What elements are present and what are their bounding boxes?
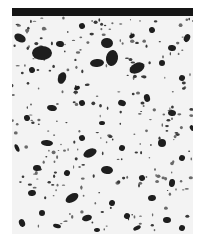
pore — [164, 207, 168, 210]
pore — [189, 108, 193, 111]
pore — [125, 58, 129, 60]
pore — [27, 106, 28, 109]
pore — [154, 20, 158, 22]
pore — [29, 67, 36, 74]
pore — [138, 174, 146, 182]
pore — [81, 177, 85, 179]
pore — [117, 180, 120, 183]
pore — [166, 130, 169, 132]
pore — [96, 96, 99, 97]
pore — [111, 22, 113, 24]
pore — [142, 40, 146, 43]
pore — [174, 135, 177, 138]
pore — [150, 144, 152, 146]
pore — [95, 202, 97, 204]
pore — [100, 115, 101, 118]
pore — [104, 25, 106, 27]
pore — [53, 175, 55, 179]
pore — [38, 87, 40, 89]
pore — [129, 58, 133, 61]
micrograph-canvas — [12, 8, 193, 234]
pore — [138, 113, 142, 115]
pore — [119, 23, 122, 24]
pore — [30, 104, 32, 106]
micrograph-image — [12, 8, 193, 234]
pore — [126, 176, 128, 179]
pore — [127, 75, 129, 76]
pore — [189, 114, 193, 117]
pore — [24, 145, 28, 149]
pore — [101, 211, 104, 213]
pore — [152, 213, 153, 216]
pore — [176, 42, 179, 45]
pore — [37, 69, 40, 71]
pore — [28, 45, 29, 48]
pore — [27, 82, 30, 85]
pore — [167, 190, 168, 191]
pore — [148, 194, 157, 201]
pore — [75, 66, 77, 69]
pore — [106, 141, 108, 143]
pore — [181, 50, 183, 52]
pore — [47, 130, 49, 131]
pore — [31, 122, 34, 124]
pore — [12, 119, 14, 122]
pore — [32, 58, 34, 59]
pore — [56, 155, 58, 159]
pore — [158, 137, 160, 140]
pore — [60, 223, 63, 224]
pore — [56, 121, 57, 122]
pore — [75, 157, 78, 160]
pore — [136, 91, 140, 94]
pore — [93, 174, 95, 178]
pore — [186, 18, 189, 21]
pore — [164, 77, 165, 79]
pore — [143, 105, 145, 107]
pore — [98, 192, 100, 193]
pore — [171, 172, 172, 174]
pore — [138, 184, 140, 188]
pore — [117, 99, 127, 107]
pore — [131, 214, 133, 216]
pore — [107, 106, 109, 110]
pore — [58, 150, 60, 151]
pore — [63, 221, 67, 222]
pore — [52, 65, 55, 68]
pore — [54, 172, 57, 174]
pore — [169, 107, 170, 110]
pore — [73, 85, 80, 91]
pore — [128, 60, 147, 76]
pore — [36, 178, 38, 179]
pore — [155, 174, 156, 177]
pore — [101, 37, 114, 48]
pore — [43, 161, 45, 164]
pore — [55, 189, 57, 191]
pore — [94, 228, 100, 233]
pore — [16, 123, 19, 126]
pore — [165, 125, 169, 127]
pore — [133, 224, 142, 231]
pore — [143, 93, 151, 102]
pore — [17, 24, 21, 26]
pore — [171, 117, 173, 120]
pore — [171, 106, 174, 109]
pore — [182, 87, 185, 90]
pore — [154, 229, 156, 231]
pore — [120, 39, 121, 42]
pore — [30, 120, 33, 121]
pore — [63, 169, 71, 177]
pore — [78, 134, 86, 142]
pore — [109, 29, 112, 30]
pore — [53, 134, 55, 135]
pore — [102, 152, 104, 156]
pore — [33, 187, 37, 189]
pore — [140, 143, 141, 145]
pore — [83, 195, 85, 197]
pore — [185, 215, 189, 218]
pore — [148, 61, 150, 64]
pore — [81, 70, 83, 74]
pore — [62, 17, 65, 20]
pore — [141, 101, 145, 104]
pore — [149, 27, 156, 34]
pore — [56, 71, 68, 85]
